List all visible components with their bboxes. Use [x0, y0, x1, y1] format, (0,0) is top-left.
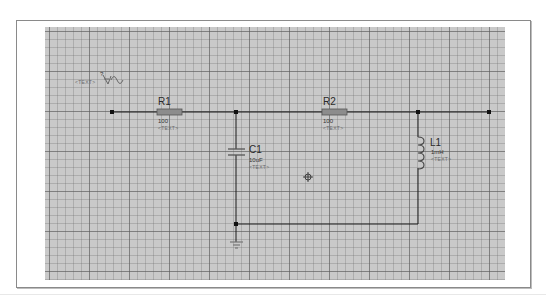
- source-question-mark: ?: [100, 71, 103, 77]
- r1-value-label[interactable]: 100: [158, 118, 168, 124]
- ground-icon: [230, 242, 243, 248]
- r1-ref-label[interactable]: R1: [158, 97, 171, 107]
- l1-value-label[interactable]: 1mH: [431, 149, 444, 155]
- bottom-divider: [0, 294, 546, 295]
- source-text-label: <TEXT>: [75, 80, 95, 85]
- r2-ref-label[interactable]: R2: [323, 97, 336, 107]
- inductor-l1-coil: [418, 137, 424, 169]
- junction-dot: [110, 110, 114, 114]
- crosshair-cursor-icon: [303, 172, 313, 182]
- r2-value-label[interactable]: 100: [323, 118, 333, 124]
- ac-source-icon: [103, 75, 123, 84]
- schematic-wires: [0, 0, 546, 304]
- junction-dot: [234, 222, 238, 226]
- c1-value-label[interactable]: 10uF: [249, 157, 263, 163]
- r2-text-label: <TEXT>: [323, 126, 343, 131]
- c1-ref-label[interactable]: C1: [249, 145, 262, 155]
- junction-dot: [234, 110, 238, 114]
- junction-dot: [416, 110, 420, 114]
- r1-text-label: <TEXT>: [158, 126, 178, 131]
- l1-text-label: <TEXT>: [431, 157, 451, 162]
- c1-text-label: <TEXT>: [249, 165, 269, 170]
- resistor-r2-body: [322, 109, 347, 115]
- junction-dot: [487, 110, 491, 114]
- l1-ref-label[interactable]: L1: [430, 138, 441, 148]
- resistor-r1-body: [157, 109, 182, 115]
